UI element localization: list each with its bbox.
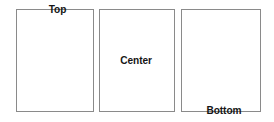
box-bottom: Bottom [181, 9, 261, 112]
box-bottom-label: Bottom [206, 105, 241, 116]
box-center-label: Center [121, 55, 153, 66]
box-center: Center [99, 9, 175, 112]
box-top: Top [16, 9, 94, 112]
illustration-canvas: Top Center Bottom [0, 0, 274, 122]
box-top-label: Top [49, 4, 67, 15]
